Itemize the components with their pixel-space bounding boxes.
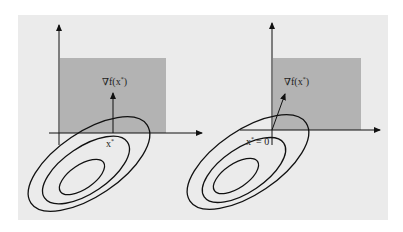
optimality-diagram: ∇f(x*) x* ∇f(x*) x*= 0 [0, 0, 403, 232]
right-optimum-label: x*= 0 [246, 136, 269, 147]
left-gradient-label: ∇f(x*) [102, 76, 127, 88]
right-gradient-label: ∇f(x*) [284, 76, 309, 88]
right-feasible-region [273, 58, 361, 130]
